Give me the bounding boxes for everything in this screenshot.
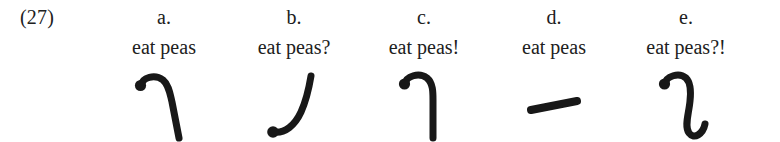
item-letter-d: d. xyxy=(484,4,624,30)
s-curve-stroke-icon xyxy=(651,68,721,142)
figure-item-e: e. eat peas?! xyxy=(616,0,756,142)
item-letter-e: e. xyxy=(616,4,756,30)
figure-item-d: d. eat peas xyxy=(484,0,624,142)
gesture-e-container xyxy=(616,68,756,142)
item-letter-a: a. xyxy=(94,4,234,30)
item-utterance-b: eat peas? xyxy=(224,34,364,60)
hook-stroke-steep-down-icon xyxy=(389,68,459,142)
item-utterance-a: eat peas xyxy=(94,34,234,60)
item-utterance-c: eat peas! xyxy=(354,34,494,60)
hook-stroke-down-right-icon xyxy=(129,68,199,142)
rising-j-stroke-icon xyxy=(259,68,329,142)
gesture-figure: (27) a. eat peas b. eat peas? c. eat pea… xyxy=(0,0,780,142)
item-utterance-d: eat peas xyxy=(484,34,624,60)
item-letter-b: b. xyxy=(224,4,364,30)
item-letter-c: c. xyxy=(354,4,494,30)
gesture-a-container xyxy=(94,68,234,142)
gesture-b-container xyxy=(224,68,364,142)
figure-item-a: a. eat peas xyxy=(94,0,234,142)
example-number: (27) xyxy=(20,4,54,30)
item-utterance-e: eat peas?! xyxy=(616,34,756,60)
gesture-d-container xyxy=(484,68,624,142)
flat-dash-stroke-icon xyxy=(519,68,589,142)
figure-item-b: b. eat peas? xyxy=(224,0,364,142)
gesture-c-container xyxy=(354,68,494,142)
figure-item-c: c. eat peas! xyxy=(354,0,494,142)
